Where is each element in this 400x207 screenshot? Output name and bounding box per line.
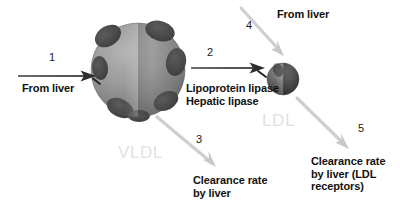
arrow-2-number: 2 — [207, 47, 213, 58]
arrow-2-label-lipases: Lipoprotein lipase Hepatic lipase — [186, 82, 279, 107]
arrow-5 — [297, 98, 349, 149]
arrow-5-label-clearance-ldl: Clearance rate by liver (LDL receptors) — [311, 155, 385, 193]
arrow-1-number: 1 — [49, 52, 55, 63]
arrow-1-label-from-liver: From liver — [22, 82, 74, 95]
arrow-2 — [191, 63, 266, 78]
vldl-label: VLDL — [118, 144, 163, 161]
arrow-4-label-from-liver: From liver — [277, 8, 329, 21]
arrow-3-number: 3 — [196, 134, 202, 145]
arrow-3-label-clearance: Clearance rate by liver — [193, 174, 267, 199]
vldl-particle — [91, 17, 188, 122]
ldl-label: LDL — [262, 112, 295, 129]
arrow-5-number: 5 — [358, 123, 364, 134]
arrow-3 — [157, 117, 216, 167]
arrow-4-number: 4 — [246, 20, 252, 31]
diagram-canvas: 1 2 3 4 5 From liver Lipoprotein lipase … — [0, 0, 400, 207]
